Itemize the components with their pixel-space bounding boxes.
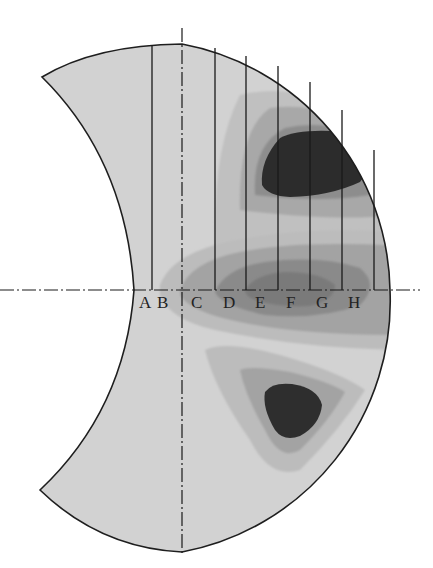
contour-diagram: A B C D E F G H xyxy=(0,0,433,568)
label-b: B xyxy=(157,293,168,312)
label-c: C xyxy=(191,293,202,312)
label-f: F xyxy=(286,293,295,312)
crescent-body xyxy=(40,44,400,552)
label-d: D xyxy=(223,293,235,312)
label-a: A xyxy=(139,293,152,312)
label-h: H xyxy=(348,293,360,312)
label-g: G xyxy=(316,293,328,312)
label-e: E xyxy=(255,293,265,312)
